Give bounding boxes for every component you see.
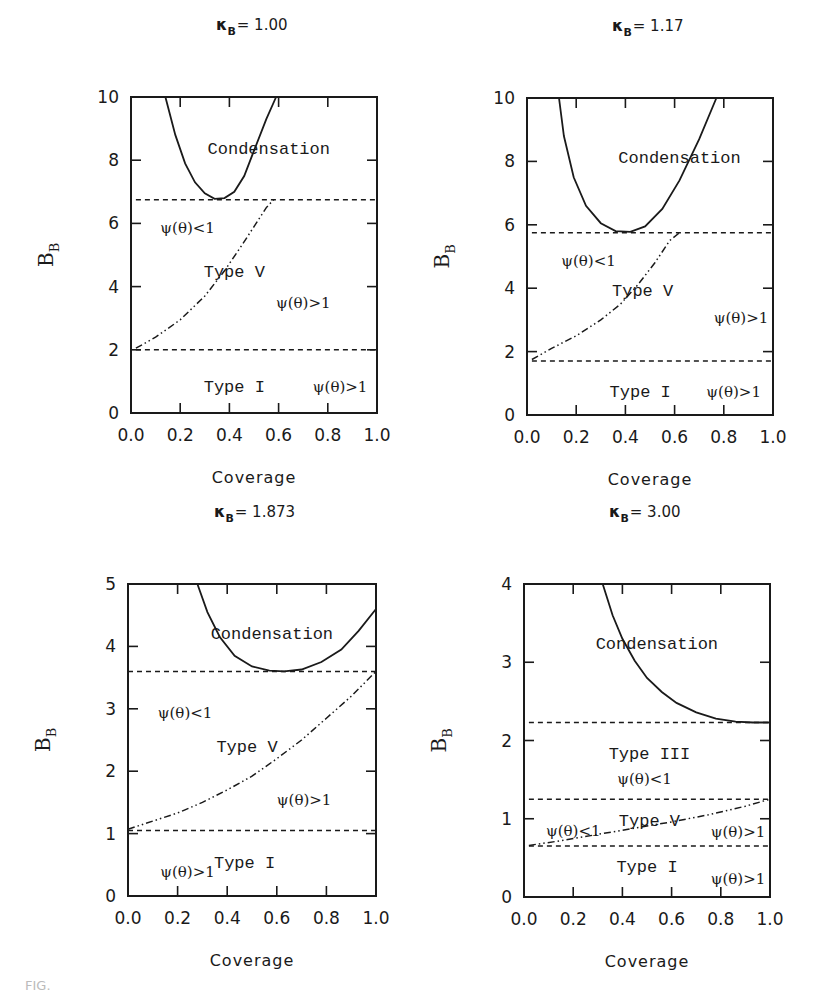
chart-title: κB= 1.17 [612, 16, 684, 39]
y-tick-label: 0 [105, 886, 116, 906]
region-label: Type I [214, 854, 275, 873]
psi-condition-label: ψ(θ)<1 [546, 822, 601, 840]
x-axis-label: Coverage [212, 468, 297, 487]
x-tick-label: 0.2 [560, 909, 587, 929]
y-tick-label: 4 [501, 574, 512, 594]
y-axis-label: BB [34, 243, 62, 267]
x-tick-label: 0.2 [164, 908, 191, 928]
x-tick-label: 0.8 [707, 909, 734, 929]
x-tick-label: 0.2 [563, 427, 590, 447]
psi-condition-label: ψ(θ)<1 [160, 219, 215, 237]
x-tick-label: 1.0 [363, 425, 390, 445]
y-axis-label: BB [31, 728, 59, 752]
psi-condition-label: ψ(θ)<1 [158, 704, 213, 722]
panel-kappa-1-00: κB= 1.000.00.20.40.60.81.00246810Coverag… [34, 15, 391, 487]
region-label: Type V [216, 738, 278, 757]
x-tick-label: 0.2 [167, 425, 194, 445]
psi-condition-label: ψ(θ)>1 [313, 378, 368, 396]
y-tick-label: 5 [105, 574, 116, 594]
y-tick-label: 3 [105, 699, 116, 719]
chart-title: κB= 1.873 [214, 502, 295, 525]
region-label: Type I [616, 858, 677, 877]
x-tick-label: 1.0 [756, 909, 783, 929]
region-label: Type V [619, 812, 681, 831]
y-tick-label: 0 [501, 887, 512, 907]
y-tick-label: 0 [504, 405, 515, 425]
psi-condition-label: ψ(θ)<1 [617, 770, 672, 788]
region-label: Condensation [208, 140, 330, 159]
plot-frame [524, 584, 770, 897]
y-tick-label: 6 [108, 213, 119, 233]
region-label: Condensation [211, 625, 333, 644]
panel-kappa-1-17: κB= 1.170.00.20.40.60.81.00246810Coverag… [430, 16, 787, 489]
y-tick-label: 8 [504, 151, 515, 171]
y-tick-label: 1 [105, 824, 116, 844]
x-tick-label: 0.8 [710, 427, 737, 447]
phase-diagram-figure: κB= 1.000.00.20.40.60.81.00246810Coverag… [0, 0, 822, 995]
psi-condition-label: ψ(θ)>1 [711, 823, 766, 841]
region-label: Type V [612, 282, 674, 301]
y-tick-label: 2 [108, 340, 119, 360]
psi-condition-label: ψ(θ)>1 [276, 294, 331, 312]
y-tick-label: 4 [105, 636, 116, 656]
x-tick-label: 1.0 [362, 908, 389, 928]
x-axis-label: Coverage [608, 470, 693, 489]
y-tick-label: 6 [504, 215, 515, 235]
region-label: Type III [609, 745, 691, 764]
y-tick-label: 4 [108, 277, 119, 297]
y-tick-label: 10 [493, 88, 515, 108]
region-label: Type I [610, 383, 671, 402]
x-tick-label: 0.4 [216, 425, 243, 445]
y-tick-label: 3 [501, 652, 512, 672]
x-tick-label: 1.0 [759, 427, 786, 447]
x-tick-label: 0.0 [117, 425, 144, 445]
x-axis-label: Coverage [210, 951, 295, 970]
plot-series [529, 584, 770, 846]
x-tick-label: 0.6 [265, 425, 292, 445]
region-label: Condensation [596, 635, 718, 654]
panel-kappa-1-873: κB= 1.8730.00.20.40.60.81.0012345Coverag… [31, 502, 390, 970]
chart-title: κB= 1.00 [216, 15, 288, 38]
x-tick-label: 0.8 [314, 425, 341, 445]
figure-caption: FIG. [25, 978, 51, 993]
x-tick-label: 0.0 [510, 909, 537, 929]
x-tick-label: 0.6 [661, 427, 688, 447]
y-tick-label: 2 [504, 342, 515, 362]
psi-condition-label: ψ(θ)>1 [711, 870, 766, 888]
y-tick-label: 4 [504, 278, 515, 298]
x-tick-label: 0.4 [214, 908, 241, 928]
region-label: Type V [204, 263, 266, 282]
psi-condition-label: ψ(θ)>1 [714, 309, 769, 327]
y-tick-label: 8 [108, 150, 119, 170]
x-tick-label: 0.4 [612, 427, 639, 447]
x-tick-label: 0.4 [609, 909, 636, 929]
x-tick-label: 0.6 [658, 909, 685, 929]
y-tick-label: 0 [108, 403, 119, 423]
psi-condition-label: ψ(θ)>1 [706, 383, 761, 401]
x-tick-label: 0.0 [513, 427, 540, 447]
region-label: Type I [204, 378, 265, 397]
x-tick-label: 0.6 [263, 908, 290, 928]
psi-condition-label: ψ(θ)<1 [561, 252, 616, 270]
x-tick-label: 0.0 [114, 908, 141, 928]
y-tick-label: 1 [501, 809, 512, 829]
chart-title: κB= 3.00 [609, 502, 681, 525]
panel-kappa-3-00: κB= 3.000.00.20.40.60.81.001234CoverageB… [427, 502, 784, 971]
y-axis-label: BB [427, 728, 455, 752]
y-tick-label: 2 [105, 761, 116, 781]
y-axis-label: BB [430, 244, 458, 268]
y-tick-label: 10 [97, 87, 119, 107]
y-tick-label: 2 [501, 731, 512, 751]
psi-condition-label: ψ(θ)>1 [160, 863, 215, 881]
psi-condition-label: ψ(θ)>1 [277, 791, 332, 809]
x-axis-label: Coverage [605, 952, 690, 971]
x-tick-label: 0.8 [313, 908, 340, 928]
region-label: Condensation [618, 149, 740, 168]
